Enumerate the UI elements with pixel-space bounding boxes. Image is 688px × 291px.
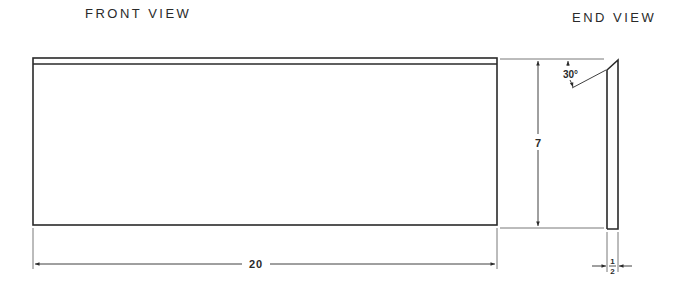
thickness-denominator: 2 [610,267,615,276]
height-dimension: 7 [500,59,604,228]
thickness-dimension: 1 2 [592,232,632,276]
height-dimension-label: 7 [535,137,541,149]
thickness-numerator: 1 [610,257,615,266]
end-view-outline [607,60,618,229]
angle-dimension-label: 30° [563,69,578,80]
angle-dimension: 30° [563,61,606,88]
length-dimension-label: 20 [249,258,263,270]
length-dimension: 20 [33,228,497,270]
technical-drawing: 7 30° 20 1 2 [0,0,688,291]
end-view [607,60,618,229]
front-view-outline [33,58,497,225]
front-view [33,58,497,225]
